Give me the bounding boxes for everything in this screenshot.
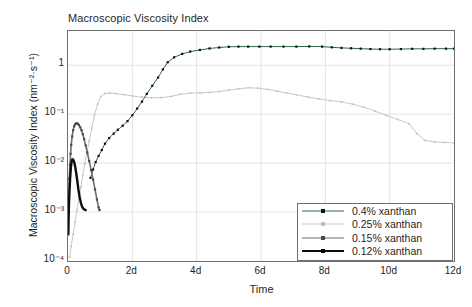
legend-label: 0.4% xanthan xyxy=(344,205,416,217)
legend-label: 0.25% xanthan xyxy=(344,218,422,230)
x-tick-label: 4d xyxy=(176,265,216,276)
y-tick-labels: 110⁻¹10⁻²10⁻³10⁻⁴ xyxy=(36,0,64,307)
legend-swatch xyxy=(302,205,344,217)
legend-marker xyxy=(321,222,325,226)
x-tick-label: 2d xyxy=(111,265,151,276)
legend-item-1[interactable]: 0.25% xanthan xyxy=(298,218,452,232)
y-tick-label: 10⁻¹ xyxy=(38,106,64,117)
y-tick-label: 10⁻⁴ xyxy=(38,253,64,264)
y-tick-label: 10⁻² xyxy=(38,155,64,166)
chart-figure: Macroscopic Viscosity Index Macroscopic … xyxy=(0,0,472,307)
x-tick-label: 10d xyxy=(369,265,409,276)
x-tick-label: 12d xyxy=(433,265,472,276)
legend-item-0[interactable]: 0.4% xanthan xyxy=(298,204,452,218)
chart-legend: 0.4% xanthan0.25% xanthan0.15% xanthan0.… xyxy=(297,203,453,261)
y-tick-label: 10⁻³ xyxy=(38,204,64,215)
x-axis-label: Time xyxy=(67,283,456,295)
series-3 xyxy=(68,159,85,234)
x-tick-label: 8d xyxy=(304,265,344,276)
y-tick-label: 1 xyxy=(38,57,64,68)
x-tick-label: 6d xyxy=(240,265,280,276)
legend-swatch xyxy=(302,218,344,230)
legend-marker xyxy=(321,249,325,253)
legend-marker xyxy=(321,236,325,240)
legend-swatch xyxy=(302,232,344,244)
legend-item-2[interactable]: 0.15% xanthan xyxy=(298,231,452,245)
legend-item-3[interactable]: 0.12% xanthan xyxy=(298,245,452,259)
x-tick-label: 0 xyxy=(47,265,87,276)
legend-label: 0.12% xanthan xyxy=(344,245,422,257)
legend-marker xyxy=(321,209,325,213)
chart-title: Macroscopic Viscosity Index xyxy=(68,12,209,24)
legend-swatch xyxy=(302,245,344,257)
legend-label: 0.15% xanthan xyxy=(344,232,422,244)
